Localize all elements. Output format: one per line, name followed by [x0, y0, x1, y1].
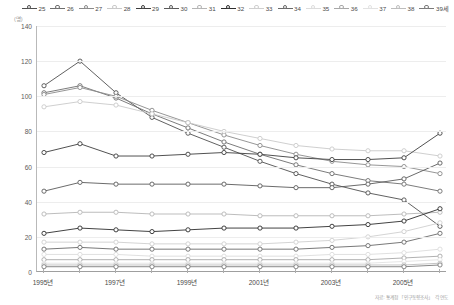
y-axis: 020406080100120140 [0, 26, 32, 272]
legend-label: 32 [237, 5, 244, 12]
x-axis-tick [79, 269, 80, 273]
x-axis-tick [295, 269, 296, 273]
y-axis-tick-label: 0 [28, 269, 32, 276]
gridline [37, 167, 446, 168]
legend-item-32[interactable]: 32 [221, 4, 244, 13]
legend-label: 27 [95, 5, 102, 12]
chart-root: 252627282930313233343536373839세 (명) 0204… [0, 0, 454, 305]
legend-label: 38 [408, 5, 415, 12]
legend-marker-icon [107, 4, 122, 13]
legend-label: 39세 [436, 4, 449, 13]
x-axis-tick [223, 269, 224, 273]
x-axis-tick-label: 1999년 [177, 277, 198, 287]
y-axis-tick-label: 40 [25, 198, 32, 205]
x-axis-tick-label: 2005년 [393, 277, 414, 287]
x-axis: 1995년1997년1999년2001년2003년2005년 [36, 274, 446, 288]
x-axis-tick [43, 269, 44, 273]
legend-item-34[interactable]: 34 [278, 4, 301, 13]
legend-marker-icon [164, 4, 179, 13]
legend-marker-icon [306, 4, 321, 13]
x-axis-tick [331, 269, 332, 273]
x-axis-tick [439, 269, 440, 273]
x-axis-tick-label: 1997년 [105, 277, 126, 287]
legend-marker-icon [249, 4, 264, 13]
source-note: 자료: 통계청 「인구동향조사」 각 연도 [375, 293, 448, 300]
legend-item-27[interactable]: 27 [79, 4, 102, 13]
gridline [37, 202, 446, 203]
legend-marker-icon [334, 4, 349, 13]
y-axis-tick-label: 120 [21, 58, 32, 65]
gridline [37, 237, 446, 238]
legend-item-31[interactable]: 31 [192, 4, 215, 13]
legend-label: 25 [39, 5, 46, 12]
legend-marker-icon [79, 4, 94, 13]
x-axis-tick-label: 1995년 [33, 277, 54, 287]
x-axis-tick-label: 2001년 [249, 277, 270, 287]
legend-item-33[interactable]: 33 [249, 4, 272, 13]
legend-label: 33 [266, 5, 273, 12]
legend-label: 36 [351, 5, 358, 12]
x-axis-tick [115, 269, 116, 273]
legend-marker-icon [50, 4, 65, 13]
legend-item-29[interactable]: 29 [136, 4, 159, 13]
y-axis-tick-label: 80 [25, 128, 32, 135]
gridline [37, 61, 446, 62]
y-axis-tick-label: 100 [21, 93, 32, 100]
gridlines [37, 26, 446, 271]
legend-label: 37 [379, 5, 386, 12]
legend-marker-icon [419, 4, 434, 13]
legend-item-39[interactable]: 39세 [419, 4, 448, 13]
x-axis-tick [367, 269, 368, 273]
x-axis-tick [187, 269, 188, 273]
legend-label: 29 [152, 5, 159, 12]
legend-marker-icon [391, 4, 406, 13]
legend-item-28[interactable]: 28 [107, 4, 130, 13]
x-axis-tick [151, 269, 152, 273]
y-axis-tick-label: 20 [25, 233, 32, 240]
gridline [37, 131, 446, 132]
legend-item-25[interactable]: 25 [22, 4, 45, 13]
gridline [37, 96, 446, 97]
chart-legend: 252627282930313233343536373839세 [22, 0, 454, 16]
legend-marker-icon [192, 4, 207, 13]
legend-label: 35 [322, 5, 329, 12]
legend-marker-icon [136, 4, 151, 13]
legend-item-35[interactable]: 35 [306, 4, 329, 13]
legend-item-37[interactable]: 37 [363, 4, 386, 13]
x-axis-tick [403, 269, 404, 273]
legend-marker-icon [363, 4, 378, 13]
legend-item-30[interactable]: 30 [164, 4, 187, 13]
legend-marker-icon [221, 4, 236, 13]
legend-item-36[interactable]: 36 [334, 4, 357, 13]
legend-marker-icon [278, 4, 293, 13]
legend-item-26[interactable]: 26 [50, 4, 73, 13]
plot-area [36, 26, 446, 272]
gridline [37, 26, 446, 27]
legend-item-38[interactable]: 38 [391, 4, 414, 13]
y-axis-tick-label: 140 [21, 23, 32, 30]
legend-marker-icon [22, 4, 37, 13]
legend-label: 34 [294, 5, 301, 12]
y-axis-tick-label: 60 [25, 163, 32, 170]
legend-label: 28 [124, 5, 131, 12]
legend-label: 26 [67, 5, 74, 12]
x-axis-tick [259, 269, 260, 273]
legend-label: 31 [209, 5, 216, 12]
x-axis-tick-label: 2003년 [321, 277, 342, 287]
legend-label: 30 [180, 5, 187, 12]
